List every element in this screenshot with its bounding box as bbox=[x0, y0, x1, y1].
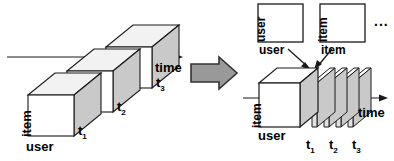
tensor-main-block bbox=[259, 68, 318, 127]
slice-label-t2: t2 bbox=[329, 138, 338, 155]
matrix-user-col-label: user bbox=[259, 44, 284, 56]
left-time-label: time bbox=[155, 61, 182, 74]
right-item-label: item bbox=[251, 103, 263, 128]
slice-label-t3-sub: 3 bbox=[356, 146, 360, 155]
matrix-item-col-label: item bbox=[321, 44, 346, 56]
cube-label-t2: t2 bbox=[117, 100, 126, 117]
right-user-label: user bbox=[258, 129, 285, 142]
cube-label-t1: t1 bbox=[78, 124, 87, 141]
diagram-vector-layer bbox=[0, 0, 394, 161]
cube-label-t3: t3 bbox=[156, 76, 165, 93]
right-time-label: time bbox=[358, 106, 385, 119]
cube-label-t1-sub: 1 bbox=[82, 132, 86, 141]
cube-label-t2-sub: 2 bbox=[121, 108, 125, 117]
cube-t1 bbox=[28, 73, 101, 136]
matrix-ellipsis: ... bbox=[374, 14, 389, 28]
slice-label-t2-sub: 2 bbox=[333, 146, 337, 155]
diagram-canvas: time item user t1 t2 t3 user user item i… bbox=[0, 0, 394, 161]
slice-label-t1-sub: 1 bbox=[310, 146, 314, 155]
slice-label-t1: t1 bbox=[306, 138, 315, 155]
arrow-user-to-tensor bbox=[288, 49, 311, 70]
matrix-item-row-label: item bbox=[317, 17, 329, 42]
transform-block-arrow bbox=[191, 57, 237, 89]
left-item-label: item bbox=[20, 110, 33, 137]
slice-label-t3: t3 bbox=[352, 138, 361, 155]
matrix-user-row-label: user bbox=[255, 17, 267, 42]
left-user-label: user bbox=[26, 140, 53, 153]
cube-label-t3-sub: 3 bbox=[160, 84, 164, 93]
